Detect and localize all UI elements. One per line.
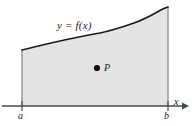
shaded-region: [22, 7, 168, 106]
figure-area-under-curve: y = f(x) P x a b: [0, 0, 192, 126]
x-axis-arrow-icon: [182, 102, 189, 109]
x-tick-label-b: b: [164, 111, 169, 121]
x-tick-label-a: a: [18, 111, 23, 121]
figure-canvas: [0, 0, 192, 126]
function-label: y = f(x): [57, 20, 92, 31]
point-marker-p: [94, 65, 100, 71]
point-label-p: P: [104, 63, 110, 73]
x-axis-label: x: [174, 97, 178, 107]
